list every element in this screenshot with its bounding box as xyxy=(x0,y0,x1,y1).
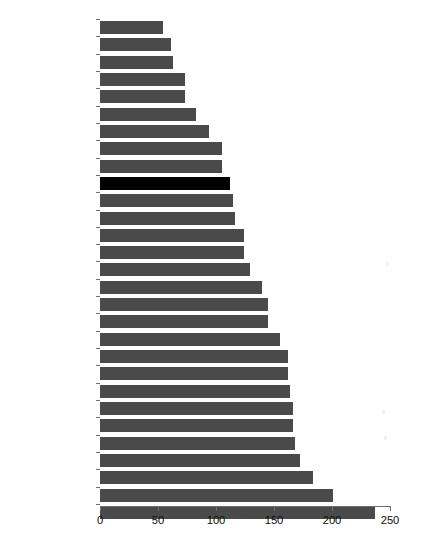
x-axis-tick-label: 200 xyxy=(323,514,342,526)
y-axis-tick xyxy=(96,88,100,89)
x-axis-tick-label: 100 xyxy=(207,514,226,526)
y-axis-tick xyxy=(96,383,100,384)
y-axis-tick xyxy=(96,227,100,228)
bar xyxy=(100,454,300,467)
y-axis-tick xyxy=(96,487,100,488)
x-axis-tick-label: 150 xyxy=(265,514,284,526)
y-axis-tick xyxy=(96,348,100,349)
bar xyxy=(100,298,268,311)
x-axis-tick xyxy=(216,506,217,511)
bar xyxy=(100,246,244,259)
y-axis-tick xyxy=(96,175,100,176)
x-axis-line xyxy=(100,506,390,507)
bar xyxy=(100,56,173,69)
y-axis-tick xyxy=(96,244,100,245)
bar xyxy=(100,229,244,242)
scan-speckle xyxy=(382,410,385,414)
bar xyxy=(100,419,293,432)
scan-speckle xyxy=(384,436,387,440)
x-axis-tick xyxy=(274,506,275,511)
x-axis-tick-label: 250 xyxy=(381,514,400,526)
bar xyxy=(100,471,313,484)
bar xyxy=(100,38,171,51)
x-axis-tick xyxy=(390,506,391,511)
y-axis-tick xyxy=(96,192,100,193)
bar xyxy=(100,281,262,294)
bar xyxy=(100,350,288,363)
y-axis-tick xyxy=(96,158,100,159)
bar xyxy=(100,21,163,34)
y-axis-tick xyxy=(96,331,100,332)
x-axis-tick xyxy=(158,506,159,511)
bar xyxy=(100,90,185,103)
y-axis-tick xyxy=(96,123,100,124)
x-axis-tick xyxy=(332,506,333,511)
y-axis-tick xyxy=(96,71,100,72)
plot-area: MoldovaTajikistanGeorgiaUkraineSerbiaBos… xyxy=(0,0,430,550)
y-axis-tick xyxy=(96,140,100,141)
y-axis-tick xyxy=(96,19,100,20)
bar xyxy=(100,385,290,398)
bar xyxy=(100,212,235,225)
bar xyxy=(100,315,268,328)
scan-speckle xyxy=(386,262,389,266)
bar xyxy=(100,194,233,207)
y-axis-tick xyxy=(96,469,100,470)
bar xyxy=(100,437,295,450)
bar xyxy=(100,142,222,155)
x-axis-tick-label: 50 xyxy=(152,514,164,526)
bar xyxy=(100,402,293,415)
y-axis-tick xyxy=(96,106,100,107)
y-axis-tick xyxy=(96,504,100,505)
y-axis-tick xyxy=(96,210,100,211)
y-axis-tick xyxy=(96,54,100,55)
bar xyxy=(100,367,288,380)
bar xyxy=(100,108,196,121)
y-axis-tick xyxy=(96,313,100,314)
y-axis-tick xyxy=(96,296,100,297)
bar xyxy=(100,263,250,276)
bar xyxy=(100,489,333,502)
bar xyxy=(100,177,230,190)
x-axis-tick-label: 0 xyxy=(97,514,103,526)
bar xyxy=(100,160,222,173)
y-axis-tick xyxy=(96,261,100,262)
y-axis-tick xyxy=(96,417,100,418)
bar-chart: MoldovaTajikistanGeorgiaUkraineSerbiaBos… xyxy=(0,0,430,550)
x-axis-tick xyxy=(100,506,101,511)
y-axis-tick xyxy=(96,435,100,436)
y-axis-tick xyxy=(96,400,100,401)
y-axis-tick xyxy=(96,279,100,280)
y-axis-tick xyxy=(96,452,100,453)
y-axis-tick xyxy=(96,365,100,366)
bar xyxy=(100,125,209,138)
bar xyxy=(100,73,185,86)
y-axis-tick xyxy=(96,36,100,37)
bar xyxy=(100,333,280,346)
